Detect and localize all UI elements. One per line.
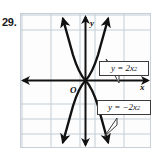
callout-up-text: y = 2x <box>111 64 134 73</box>
callout-down-text: y = −2x <box>108 103 137 112</box>
graph-plot: O x y <box>20 13 151 148</box>
textbook-problem-figure: 29. O x y y = 2x2 y = −2x2 <box>0 0 158 161</box>
callout-equation-up: y = 2x2 <box>99 61 149 76</box>
origin-label: O <box>70 85 77 95</box>
x-axis-label: x <box>139 82 145 92</box>
problem-number: 29. <box>2 16 16 28</box>
callout-down-pointer <box>104 118 117 137</box>
y-axis-label: y <box>89 18 95 28</box>
callout-equation-down: y = −2x2 <box>97 100 151 115</box>
